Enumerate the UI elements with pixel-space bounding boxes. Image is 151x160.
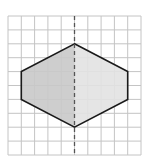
symmetry-diagram xyxy=(0,0,151,160)
